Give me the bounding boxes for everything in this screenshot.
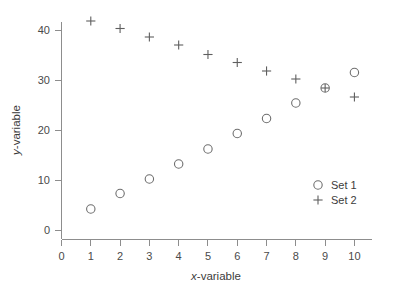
data-point-plus [145,32,154,41]
data-point-circle [174,160,182,168]
x-tick-label: 6 [234,250,240,262]
x-tick-label: 9 [322,250,328,262]
y-tick-group: 010203040 [38,24,62,236]
y-tick-label: 40 [38,24,50,36]
data-point-circle [145,175,153,183]
x-axis-title: x-variable [190,270,241,282]
y-axis-title-rest: -variable [10,105,22,149]
plot-canvas: 010203040 012345678910 x-variable y-vari… [0,0,393,297]
x-tick-label: 7 [263,250,269,262]
x-tick-label: 3 [146,250,152,262]
data-point-circle [292,99,300,107]
data-point-plus [86,16,95,25]
x-tick-group: 012345678910 [58,240,360,263]
data-point-circle [314,181,322,189]
y-tick-label: 20 [38,124,50,136]
data-point-plus [203,50,212,59]
y-tick-label: 30 [38,74,50,86]
data-point-circle [233,129,241,137]
y-tick-label: 0 [44,224,50,236]
y-tick-label: 10 [38,174,50,186]
x-axis-title-rest: -variable [197,270,241,282]
data-point-plus [233,58,242,67]
x-tick-label: 5 [205,250,211,262]
data-point-plus [313,195,322,204]
x-tick-label: 1 [88,250,94,262]
y-axis-title: y-variable [10,105,22,156]
data-point-plus [174,40,183,49]
data-point-circle [87,205,95,213]
series-set-1-points [87,68,359,213]
data-point-circle [350,68,358,76]
legend-label-2: Set 2 [331,194,357,206]
x-tick-label: 10 [348,250,360,262]
data-point-plus [291,74,300,83]
y-axis: 010203040 [38,22,62,239]
data-point-circle [204,145,212,153]
legend-label-1: Set 1 [331,179,357,191]
chart-legend: Set 1Set 2 [313,179,356,206]
scatter-plot-figure: 010203040 012345678910 x-variable y-vari… [0,0,393,297]
data-point-plus [262,66,271,75]
series-set-2-points [86,16,359,101]
data-point-plus [115,24,124,33]
data-point-circle [262,114,270,122]
x-tick-label: 4 [176,250,182,262]
x-axis: 012345678910 [58,240,372,263]
x-tick-label: 8 [293,250,299,262]
x-tick-label: 2 [117,250,123,262]
data-point-circle [116,189,124,197]
x-tick-label: 0 [58,250,64,262]
data-point-plus [350,92,359,101]
